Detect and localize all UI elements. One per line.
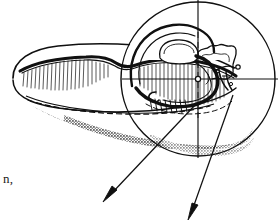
leader-arrows <box>103 95 233 220</box>
leader-arrow-right <box>188 95 233 220</box>
caption-text-fragment: n, <box>3 172 13 185</box>
figure-container: n, <box>0 0 278 222</box>
specimen-illustration <box>0 0 278 222</box>
crosshair-node <box>195 76 200 81</box>
leader-arrow-left <box>103 103 197 202</box>
magnifier-inset <box>121 0 278 158</box>
